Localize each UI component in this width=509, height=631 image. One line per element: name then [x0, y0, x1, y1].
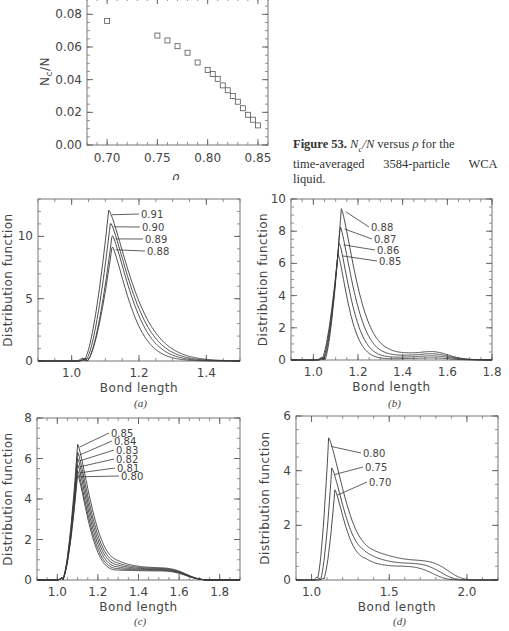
y-tick-label: 0 — [25, 354, 33, 368]
x-tick-label: 1.2 — [129, 366, 148, 380]
x-axis-label: Bond length — [358, 600, 436, 614]
leader-line — [80, 450, 114, 461]
curve-0.80 — [296, 438, 498, 580]
figure-label: Figure 53. — [293, 137, 347, 151]
plot-frame — [38, 199, 240, 361]
x-tick-label: 1.6 — [438, 365, 457, 379]
y-tick-label: 0 — [278, 353, 286, 367]
leader-line — [80, 468, 115, 473]
x-tick-label: 1.2 — [88, 585, 107, 599]
y-axis-label: Distribution function — [256, 213, 270, 346]
scatter-points — [105, 18, 261, 128]
curve-label: 0.88 — [371, 222, 393, 233]
curve-label: 0.85 — [379, 256, 401, 267]
data-point — [255, 123, 260, 128]
y-tick-label: 6 — [24, 452, 32, 466]
y-tick-label: 0.00 — [55, 138, 82, 152]
y-tick-label: 0.02 — [55, 105, 82, 119]
curves — [296, 438, 498, 580]
curve-0.89 — [38, 236, 240, 361]
y-tick-label: 0.04 — [55, 73, 82, 87]
y-tick-label: 10 — [18, 229, 33, 243]
y-tick-label: 0 — [283, 573, 291, 587]
y-tick-label: 0 — [24, 573, 32, 587]
curve-label: 0.80 — [121, 471, 143, 482]
curve-label: 0.89 — [145, 234, 167, 245]
y-axis-label: Distribution function — [1, 432, 15, 565]
leader-line — [343, 245, 375, 250]
x-tick-label: 1.5 — [380, 585, 399, 599]
x-tick-label: 0.80 — [194, 151, 221, 165]
data-point — [215, 76, 220, 81]
y-tick-label: 4 — [24, 492, 32, 506]
x-tick-label: 1.0 — [62, 366, 81, 380]
data-point — [105, 18, 110, 23]
curve-label: 0.90 — [142, 222, 164, 233]
y-tick-label: 0.08 — [55, 7, 82, 21]
x-tick-label: 1.0 — [304, 365, 323, 379]
y-axis-label: Distribution function — [1, 213, 15, 346]
curve-label: 0.87 — [374, 234, 396, 245]
data-point — [205, 67, 210, 72]
x-tick-label: 1.4 — [393, 365, 412, 379]
x-axis-label: ρ — [172, 170, 180, 180]
x-axis-label: Bond length — [99, 600, 177, 614]
y-tick-label: 2 — [283, 518, 291, 532]
x-tick-label: 0.85 — [245, 151, 272, 165]
sublabel-c: (c) — [134, 615, 146, 627]
y-tick-label: 2 — [24, 533, 32, 547]
data-point — [175, 44, 180, 49]
x-tick-label: 1.4 — [129, 585, 148, 599]
data-point — [250, 117, 255, 122]
curve-label: 0.86 — [377, 245, 399, 256]
curve-0.91 — [38, 210, 240, 361]
leader-line — [112, 214, 139, 215]
y-tick-label: 0.06 — [55, 40, 82, 54]
plot-frame — [87, 0, 268, 145]
x-tick-label: 1.0 — [302, 585, 321, 599]
curve-0.90 — [38, 224, 240, 362]
sublabel-b: (b) — [388, 397, 401, 409]
y-tick-label: 4 — [283, 464, 291, 478]
caption-math: Nc/N — [350, 137, 374, 151]
x-tick-label: 1.0 — [48, 585, 67, 599]
data-point — [185, 50, 190, 55]
panel-c-chart: 1.01.21.41.61.802468Bond lengthDistribut… — [0, 410, 255, 631]
leader-line — [346, 212, 369, 227]
x-tick-label: 0.75 — [144, 151, 171, 165]
data-point — [220, 83, 225, 88]
x-axis-label: Bond length — [100, 381, 178, 395]
x-tick-label: 1.6 — [170, 585, 189, 599]
data-point — [195, 60, 200, 65]
panel-d-chart: 1.01.52.00246Bond lengthDistribution fun… — [255, 410, 509, 631]
y-tick-label: 6 — [283, 410, 291, 423]
sublabel-d: (d) — [393, 615, 406, 627]
curve-label: 0.91 — [141, 209, 163, 220]
y-tick-label: 8 — [24, 411, 32, 425]
x-tick-label: 1.4 — [197, 366, 216, 380]
data-point — [240, 106, 245, 111]
data-point — [210, 71, 215, 76]
data-point — [165, 38, 170, 43]
panel-b-chart: 1.01.21.41.61.80246810Bond lengthDistrib… — [255, 180, 509, 395]
y-tick-label: 8 — [278, 224, 286, 238]
y-tick-label: 2 — [278, 321, 286, 335]
x-axis-label: Bond length — [352, 380, 430, 394]
y-axis-label: Distribution function — [258, 431, 272, 564]
caption-line-2: time-averaged 3584-particle WCA — [293, 157, 498, 171]
leader-line — [80, 441, 112, 455]
curve-label: 0.88 — [147, 246, 169, 257]
curve-label: 0.70 — [369, 477, 391, 488]
leader-line — [331, 446, 361, 453]
data-point — [235, 99, 240, 104]
y-axis-label: Nc/N — [38, 57, 54, 86]
curve-label: 0.80 — [363, 448, 385, 459]
data-point — [155, 33, 160, 38]
leader-line — [345, 229, 372, 239]
curve-0.80 — [37, 475, 240, 580]
curves — [38, 210, 240, 361]
data-point — [245, 112, 250, 117]
sublabel-a: (a) — [134, 397, 147, 409]
x-tick-label: 1.8 — [482, 365, 501, 379]
nc-vs-rho-chart: 0.700.750.800.850.000.020.040.060.08ρNc/… — [0, 0, 290, 180]
